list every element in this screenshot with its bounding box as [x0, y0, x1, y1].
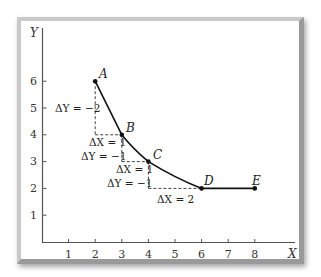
svg-text:6: 6	[198, 248, 205, 261]
ann-dy-ab: ΔY = −2	[55, 102, 100, 114]
ann-dy-bc: ΔY = −1	[81, 150, 126, 162]
delta-annotations: ΔY = −2 ΔX = 1 ΔY = −1 ΔX = 1 ΔY = −1 ΔX…	[55, 102, 194, 205]
svg-text:5: 5	[30, 102, 37, 115]
svg-text:8: 8	[251, 248, 258, 261]
label-c: C	[153, 148, 162, 162]
label-a: A	[98, 67, 108, 81]
svg-text:4: 4	[30, 128, 37, 141]
svg-text:3: 3	[30, 155, 37, 168]
label-b: B	[125, 121, 135, 135]
svg-text:5: 5	[172, 248, 179, 261]
ann-dx-cd: ΔX = 2	[157, 193, 194, 205]
y-axis-title: Y	[30, 26, 39, 40]
x-axis-title: X	[287, 247, 297, 261]
label-e: E	[251, 174, 261, 188]
ann-dx-bc: ΔX = 1	[116, 163, 153, 175]
svg-text:3: 3	[118, 248, 125, 261]
ann-dy-cd: ΔY = −1	[107, 177, 152, 189]
svg-text:7: 7	[225, 248, 232, 261]
label-d: D	[203, 174, 214, 188]
point-a	[93, 79, 98, 84]
svg-text:2: 2	[92, 248, 99, 261]
svg-text:6: 6	[30, 75, 37, 88]
y-tick-labels: 1 2 3 4 5 6	[30, 75, 37, 222]
svg-text:4: 4	[145, 248, 152, 261]
svg-text:2: 2	[30, 182, 37, 195]
ann-dx-ab: ΔX = 1	[89, 136, 126, 148]
chart-canvas: Y X 1 2 3 4 5 6 7 8 1 2 3 4 5 6	[0, 0, 321, 277]
svg-text:1: 1	[30, 209, 37, 222]
svg-text:1: 1	[65, 248, 72, 261]
x-tick-labels: 1 2 3 4 5 6 7 8	[65, 248, 258, 261]
